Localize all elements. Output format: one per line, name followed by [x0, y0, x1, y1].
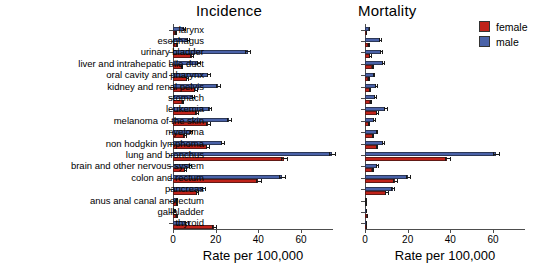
- error-bar-cap: [210, 73, 211, 77]
- x-axis-label: Rate per 100,000: [395, 248, 495, 263]
- error-bar-cap: [261, 179, 262, 183]
- error-bar-cap: [206, 122, 207, 126]
- x-tick-label: 60: [487, 234, 498, 245]
- error-bar-cap: [387, 107, 388, 111]
- x-tick: [365, 229, 366, 233]
- category-label: leukemia: [166, 105, 204, 115]
- error-bar-cap: [380, 50, 381, 54]
- category-label: stomach: [168, 93, 204, 103]
- error-bar-cap: [393, 179, 394, 183]
- panel-title-mortality: Mortality: [358, 2, 416, 19]
- error-bar-cap: [376, 95, 377, 99]
- plot-area-mortality: 0204060Rate per 100,000: [365, 24, 525, 229]
- category-label: larynx: [179, 25, 204, 35]
- x-axis-label: Rate per 100,000: [203, 248, 303, 263]
- error-bar-cap: [367, 214, 368, 218]
- error-bar-cap: [329, 152, 330, 156]
- error-bar-cap: [227, 118, 228, 122]
- error-bar-cap: [281, 157, 282, 161]
- bar-female: [365, 191, 386, 195]
- error-bar-cap: [384, 61, 385, 65]
- error-bar-cap: [379, 38, 380, 42]
- error-bar-cap: [373, 134, 374, 138]
- x-tick-label: 60: [295, 234, 306, 245]
- figure-canvas: Incidence 0204060Rate per 100,000 Mortal…: [0, 0, 547, 271]
- error-bar-cap: [406, 175, 407, 179]
- error-bar-cap: [382, 61, 383, 65]
- error-bar-cap: [205, 187, 206, 191]
- x-tick: [450, 229, 451, 233]
- category-label: lung and bronchus: [126, 150, 204, 160]
- category-label: non hodgkin lymphoma: [106, 139, 204, 149]
- x-tick-label: 0: [362, 234, 368, 245]
- category-label: liver and intrahepatic bile duct: [78, 59, 204, 69]
- error-bar-cap: [369, 27, 370, 31]
- error-bar-cap: [221, 141, 222, 145]
- x-tick: [493, 229, 494, 233]
- error-bar-cap: [210, 122, 211, 126]
- legend-swatch-female-icon: [479, 21, 490, 32]
- legend: female male: [479, 20, 528, 50]
- x-tick: [258, 229, 259, 233]
- error-bar-cap: [377, 130, 378, 134]
- error-bar-cap: [388, 191, 389, 195]
- error-bar-cap: [371, 100, 372, 104]
- error-bar-cap: [287, 157, 288, 161]
- category-label: colon and rectum: [131, 173, 204, 183]
- category-label: kidney and renal pelvis: [107, 82, 204, 92]
- error-bar-cap: [209, 145, 210, 149]
- error-bar-cap: [256, 179, 257, 183]
- error-bar-cap: [381, 38, 382, 42]
- category-label: esophagus: [158, 36, 204, 46]
- x-tick: [301, 229, 302, 233]
- error-bar-cap: [220, 84, 221, 88]
- error-bar-cap: [394, 187, 395, 191]
- category-label: anus anal canal anorectum: [90, 196, 204, 206]
- x-axis-line: [173, 229, 333, 230]
- error-bar-cap: [369, 77, 370, 81]
- category-label: thyroid: [175, 219, 204, 229]
- error-bar-cap: [499, 152, 500, 156]
- error-bar-cap: [377, 84, 378, 88]
- error-bar-cap: [397, 179, 398, 183]
- error-bar-cap: [373, 168, 374, 172]
- category-label: oral cavity and pharynx: [106, 71, 204, 81]
- bar-female: [365, 179, 395, 183]
- legend-swatch-male-icon: [479, 36, 490, 47]
- error-bar-cap: [382, 50, 383, 54]
- error-bar-cap: [493, 152, 494, 156]
- error-bar-cap: [410, 175, 411, 179]
- error-bar-cap: [369, 122, 370, 126]
- category-label: gallbladder: [158, 207, 204, 217]
- error-bar-cap: [374, 73, 375, 77]
- error-bar-cap: [378, 164, 379, 168]
- error-bar-cap: [366, 31, 367, 35]
- error-bar-cap: [384, 107, 385, 111]
- error-bar-cap: [385, 191, 386, 195]
- category-label: melanoma of the skin: [114, 116, 204, 126]
- error-bar-cap: [285, 175, 286, 179]
- error-bar-cap: [250, 50, 251, 54]
- error-bar: [329, 154, 336, 155]
- error-bar-cap: [245, 50, 246, 54]
- error-bar-cap: [366, 202, 367, 206]
- category-label: myeloma: [165, 127, 204, 137]
- error-bar-cap: [371, 54, 372, 58]
- error-bar-cap: [206, 145, 207, 149]
- error-bar-cap: [373, 65, 374, 69]
- category-label: pancreas: [165, 184, 204, 194]
- error-bar-cap: [211, 107, 212, 111]
- category-label: urinary bladder: [141, 48, 204, 58]
- error-bar-cap: [377, 145, 378, 149]
- x-tick-label: 0: [170, 234, 176, 245]
- category-label: brain and other nervous system: [71, 162, 204, 172]
- error-bar-cap: [378, 111, 379, 115]
- error-bar-cap: [450, 157, 451, 161]
- error-bar-cap: [207, 73, 208, 77]
- x-tick-label: 40: [253, 234, 264, 245]
- x-tick: [216, 229, 217, 233]
- error-bar-cap: [369, 43, 370, 47]
- error-bar-cap: [231, 118, 232, 122]
- legend-label-male: male: [496, 36, 519, 48]
- panel-title-incidence: Incidence: [196, 2, 262, 19]
